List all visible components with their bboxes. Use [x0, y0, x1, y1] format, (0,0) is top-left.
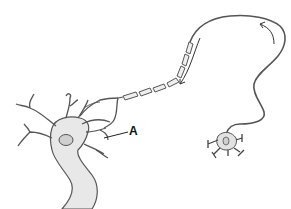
nucleus [59, 135, 73, 146]
neuron-diagram: A [0, 0, 291, 209]
label-a: A [129, 124, 138, 138]
myelin-sheath [123, 42, 193, 100]
target-neuron [208, 132, 244, 158]
axon [190, 15, 285, 134]
cell-body [51, 117, 98, 209]
label-a-leader-line [104, 132, 128, 138]
neuron-illustration [0, 0, 291, 209]
